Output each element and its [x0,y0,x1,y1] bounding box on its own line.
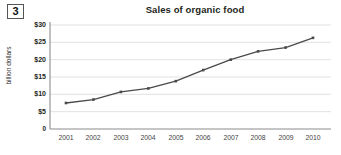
x-tick-2010: 2010 [293,135,333,142]
data-point-2003 [120,91,123,94]
figure-container: 3 Sales of organic food billion dollars … [0,0,341,155]
plot-area: $30 $25 $20 $15 $10 $5 0 [0,0,341,155]
series-line-sales [66,38,313,103]
data-point-2010 [312,37,315,40]
data-point-2009 [284,46,287,49]
data-point-2004 [147,87,150,90]
data-point-2006 [202,69,205,72]
data-point-2008 [257,50,260,53]
data-point-2007 [229,58,232,61]
data-point-2005 [174,80,177,83]
data-point-2002 [92,98,95,101]
line-chart-svg [0,0,341,155]
data-point-2001 [65,102,68,105]
